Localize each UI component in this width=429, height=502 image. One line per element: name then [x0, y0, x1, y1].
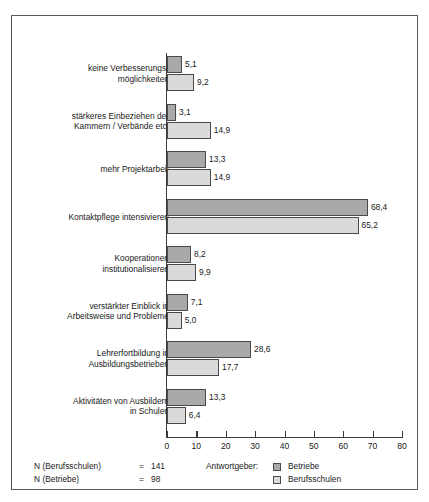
bar-group: Kontaktpflege intensivieren68,465,2: [12, 199, 419, 235]
sample-size-key: N (Berufsschulen): [34, 460, 139, 473]
bar-betriebe: [167, 341, 251, 358]
category-label: Lehrerfortbildung in Ausbildungsbetriebe…: [29, 348, 169, 369]
bar-group: verstärkter Einblick in Arbeitsweise und…: [12, 294, 419, 330]
legend-item-betriebe[interactable]: Betriebe: [273, 460, 319, 473]
x-tick: [167, 431, 168, 438]
bar-group: keine Verbesserungs- möglichkeiten5,19,2: [12, 56, 419, 92]
x-tick: [285, 431, 286, 438]
bar-betriebe: [167, 199, 368, 216]
bar-betriebe: [167, 294, 188, 311]
bar-value-label: 9,2: [194, 74, 209, 91]
bar-value-label: 28,6: [251, 341, 270, 358]
bar-group: Aktivitäten von Ausbildern in Schulen13,…: [12, 389, 419, 425]
bar-betriebe: [167, 56, 182, 73]
x-tick-label: 30: [243, 441, 267, 451]
legend-item-berufsschulen[interactable]: Berufsschulen: [273, 473, 341, 486]
bar-value-label: 5,0: [182, 312, 197, 329]
x-tick: [402, 431, 403, 438]
x-tick-label: 10: [184, 441, 208, 451]
plot-area: 01020304050607080 keine Verbesserungs- m…: [12, 16, 419, 436]
legend-swatch-icon: [273, 476, 281, 484]
category-label: keine Verbesserungs- möglichkeiten: [29, 63, 169, 84]
bar-value-label: 13,3: [206, 389, 225, 406]
bar-value-label: 7,1: [188, 294, 203, 311]
sample-size-equals: =: [139, 473, 151, 486]
bar-value-label: 9,9: [196, 264, 211, 281]
chart-footer: N (Berufsschulen)=141N (Betriebe)=98 Ant…: [12, 460, 419, 490]
chart-frame: 01020304050607080 keine Verbesserungs- m…: [11, 15, 418, 490]
sample-size-notes: N (Berufsschulen)=141N (Betriebe)=98: [34, 460, 165, 486]
bar-group: Kooperationen institutionalisieren8,29,9: [12, 246, 419, 282]
bar-berufsschulen: [167, 74, 194, 91]
x-tick: [196, 431, 197, 438]
category-label: mehr Projektarbeit: [29, 164, 169, 175]
bar-betriebe: [167, 151, 206, 168]
bar-berufsschulen: [167, 169, 211, 186]
category-label: Kontaktpflege intensivieren: [29, 212, 169, 223]
x-tick-label: 70: [361, 441, 385, 451]
bar-value-label: 6,4: [186, 407, 201, 424]
sample-size-line: N (Betriebe)=98: [34, 473, 165, 486]
bar-group: stärkeres Einbeziehen der Kammern / Verb…: [12, 104, 419, 140]
category-label: Aktivitäten von Ausbildern in Schulen: [29, 396, 169, 417]
sample-size-line: N (Berufsschulen)=141: [34, 460, 165, 473]
x-tick: [255, 431, 256, 438]
x-tick: [343, 431, 344, 438]
x-tick-label: 40: [273, 441, 297, 451]
bar-berufsschulen: [167, 217, 359, 234]
legend-title: Antwortgeber:: [206, 460, 258, 473]
x-tick: [373, 431, 374, 438]
sample-size-equals: =: [139, 460, 151, 473]
category-label: Kooperationen institutionalisieren: [29, 253, 169, 274]
x-tick: [314, 431, 315, 438]
bar-value-label: 3,1: [176, 104, 191, 121]
legend-label: Berufsschulen: [288, 473, 341, 486]
bar-betriebe: [167, 246, 191, 263]
x-tick-label: 60: [331, 441, 355, 451]
x-tick-label: 20: [214, 441, 238, 451]
bar-berufsschulen: [167, 264, 196, 281]
sample-size-value: 98: [151, 473, 160, 486]
sample-size-key: N (Betriebe): [34, 473, 139, 486]
category-label: stärkeres Einbeziehen der Kammern / Verb…: [29, 111, 169, 132]
bar-value-label: 68,4: [368, 199, 387, 216]
bar-value-label: 65,2: [359, 217, 378, 234]
bar-value-label: 14,9: [211, 169, 230, 186]
bar-berufsschulen: [167, 122, 211, 139]
bar-group: mehr Projektarbeit13,314,9: [12, 151, 419, 187]
x-tick-label: 80: [390, 441, 414, 451]
x-tick-label: 0: [155, 441, 179, 451]
legend-swatch-icon: [273, 463, 281, 471]
x-tick: [226, 431, 227, 438]
x-tick-label: 50: [302, 441, 326, 451]
bar-berufsschulen: [167, 359, 219, 376]
category-label: verstärkter Einblick in Arbeitsweise und…: [29, 301, 169, 322]
bar-value-label: 13,3: [206, 151, 225, 168]
bar-value-label: 17,7: [219, 359, 238, 376]
bar-berufsschulen: [167, 407, 186, 424]
sample-size-value: 141: [151, 460, 165, 473]
bar-berufsschulen: [167, 312, 182, 329]
bar-betriebe: [167, 389, 206, 406]
bar-value-label: 8,2: [191, 246, 206, 263]
legend-label: Betriebe: [288, 460, 319, 473]
bar-group: Lehrerfortbildung in Ausbildungsbetriebe…: [12, 341, 419, 377]
bar-betriebe: [167, 104, 176, 121]
bar-value-label: 5,1: [182, 56, 197, 73]
bar-value-label: 14,9: [211, 122, 230, 139]
